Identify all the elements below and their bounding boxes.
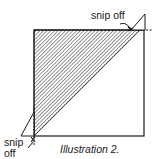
snip-off-label-top: snip off xyxy=(91,10,125,21)
snip-off-label-bottom-line1: snip xyxy=(4,137,23,148)
hatched-triangle xyxy=(34,30,140,136)
bottom-snip-pointer xyxy=(28,142,33,148)
folded-square-diagram xyxy=(0,0,159,159)
top-right-flap xyxy=(131,14,145,30)
figure-caption: Illustration 2. xyxy=(60,143,120,155)
bottom-left-flap xyxy=(21,112,34,136)
illustration-canvas: snip off snip off Illustration 2. xyxy=(0,0,159,159)
snip-off-label-bottom: snip off xyxy=(4,137,23,158)
snip-off-label-bottom-line2: off xyxy=(4,148,23,159)
